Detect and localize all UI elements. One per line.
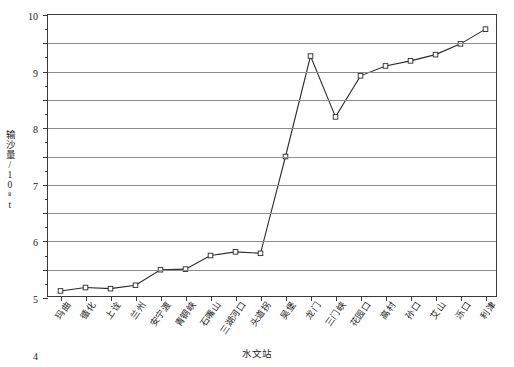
x-axis-tick-label: 泺口 (454, 301, 472, 321)
y-axis-minor-tick (45, 86, 48, 87)
data-point-marker (83, 285, 88, 290)
y-axis-tick-label: 5 (33, 294, 38, 305)
y-axis-minor-tick (45, 284, 48, 285)
y-axis-tick: 4 (43, 185, 48, 186)
plot-area: 012345678910 (47, 14, 497, 297)
y-axis-tick: 10 (43, 15, 48, 16)
gridline (48, 213, 496, 214)
y-axis-minor-tick (45, 171, 48, 172)
x-axis-tick-label: 艾山 (429, 301, 447, 321)
data-point-marker (308, 54, 313, 59)
y-axis-tick-label: 7 (33, 180, 38, 191)
y-axis-minor-tick (45, 29, 48, 30)
y-axis-minor-tick (45, 227, 48, 228)
data-point-marker (58, 289, 63, 294)
series-line (61, 29, 486, 291)
x-axis-tick-label: 兰州 (129, 301, 147, 321)
x-axis-tick-label: 吴堡 (279, 301, 297, 321)
x-axis-tick-label: 石嘴山 (199, 301, 222, 329)
data-point-marker (233, 250, 238, 255)
y-axis-minor-tick (45, 114, 48, 115)
gridline (48, 100, 496, 101)
y-axis-tick: 0 (43, 298, 48, 299)
gridline (48, 185, 496, 186)
gridline (48, 72, 496, 73)
x-axis-title: 水文站 (0, 346, 514, 360)
data-point-marker (108, 286, 113, 291)
x-axis-tick-label: 循化 (79, 301, 97, 321)
y-axis-minor-tick (45, 256, 48, 257)
data-point-marker (383, 64, 388, 69)
x-axis-tick-label: 头道拐 (249, 301, 272, 329)
y-axis-tick-label: 8 (33, 124, 38, 135)
y-axis-tick-label: 6 (33, 237, 38, 248)
gridline (48, 241, 496, 242)
y-axis-title: 输沙量/10⁸t (2, 110, 16, 230)
data-point-marker (133, 283, 138, 288)
chart-figure: 输沙量/10⁸t 012345678910 玛曲循化上诠兰州安宁渡青铜峡石嘴山三… (0, 0, 514, 367)
y-axis-tick: 1 (43, 270, 48, 271)
data-point-marker (433, 52, 438, 57)
y-axis-minor-tick (45, 57, 48, 58)
data-point-marker (208, 253, 213, 258)
y-axis-tick: 6 (43, 128, 48, 129)
y-axis-tick: 9 (43, 43, 48, 44)
data-point-marker (483, 27, 488, 32)
y-axis-tick-label: 10 (28, 11, 38, 22)
y-axis-minor-tick (45, 142, 48, 143)
gridline (48, 43, 496, 44)
x-axis-tick-label: 花园口 (349, 301, 372, 329)
gridline (48, 157, 496, 158)
x-axis-tick-labels: 玛曲循化上诠兰州安宁渡青铜峡石嘴山三湖河口头道拐吴堡龙门三门峡花园口高村孙口艾山… (47, 301, 497, 349)
y-axis-tick: 5 (43, 157, 48, 158)
x-axis-tick-label: 三门峡 (324, 301, 347, 329)
x-axis-tick-label: 上诠 (104, 301, 122, 321)
data-point-marker (408, 59, 413, 64)
x-axis-tick-label: 三湖河口 (219, 301, 247, 336)
x-axis-tick-label: 孙口 (404, 301, 422, 321)
x-axis-tick-label: 高村 (379, 301, 397, 321)
y-axis-tick: 3 (43, 213, 48, 214)
y-axis-tick: 8 (43, 72, 48, 73)
gridline (48, 270, 496, 271)
y-axis-tick: 7 (43, 100, 48, 101)
y-axis-tick-label: 9 (33, 67, 38, 78)
x-axis-tick-label: 玛曲 (54, 301, 72, 321)
x-axis-tick-label: 青铜峡 (174, 301, 197, 329)
data-point-marker (358, 74, 363, 79)
y-axis-tick: 2 (43, 241, 48, 242)
x-axis-tick-label: 利津 (479, 301, 497, 321)
x-axis-tick-label: 龙门 (304, 301, 322, 321)
x-axis-tick-label: 安宁渡 (149, 301, 172, 329)
data-point-marker (333, 115, 338, 120)
data-point-marker (258, 251, 263, 256)
gridline (48, 128, 496, 129)
y-axis-minor-tick (45, 199, 48, 200)
